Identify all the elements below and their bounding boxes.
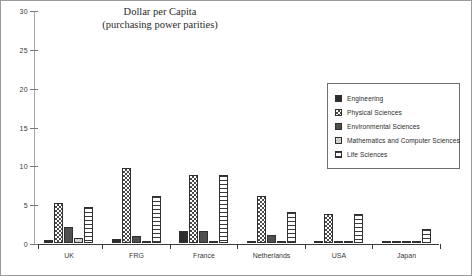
bar bbox=[392, 241, 401, 243]
y-axis-tick bbox=[30, 244, 38, 245]
y-axis-tick-label: 15 bbox=[19, 124, 28, 131]
bar bbox=[189, 175, 198, 243]
y-axis-tick-label: 25 bbox=[19, 46, 28, 53]
bar bbox=[287, 212, 296, 243]
bar bbox=[247, 241, 256, 243]
x-axis-label-japan: Japan bbox=[397, 252, 416, 259]
x-axis-label-usa: USA bbox=[332, 252, 346, 259]
bar bbox=[324, 214, 333, 243]
y-axis-tick bbox=[30, 205, 38, 206]
legend-swatch-icon bbox=[335, 137, 342, 144]
y-axis-tick-label: 30 bbox=[19, 8, 28, 15]
x-axis-tick bbox=[102, 244, 103, 249]
x-axis-tick bbox=[305, 244, 306, 249]
y-axis-tick-label: 20 bbox=[19, 85, 28, 92]
x-axis-label-netherlands: Netherlands bbox=[253, 252, 291, 259]
y-axis-tick-label: 5 bbox=[24, 202, 28, 209]
bar bbox=[44, 240, 53, 243]
bar-group-netherlands bbox=[247, 10, 296, 243]
bar bbox=[132, 236, 141, 243]
bar bbox=[422, 229, 431, 243]
x-axis-label-uk: UK bbox=[64, 252, 74, 259]
bar bbox=[314, 241, 323, 243]
legend-item-engineering[interactable]: Engineering bbox=[335, 91, 453, 105]
x-axis-tick bbox=[372, 244, 373, 249]
legend-item-label: Mathematics and Computer Sciences bbox=[347, 137, 460, 144]
legend-swatch-icon bbox=[335, 95, 342, 102]
y-axis-tick bbox=[30, 50, 38, 51]
legend-item-label: Physical Sciences bbox=[347, 109, 402, 116]
bar bbox=[412, 241, 421, 243]
y-axis-tick bbox=[30, 11, 38, 12]
bar-group-uk bbox=[44, 10, 93, 243]
bar bbox=[267, 235, 276, 243]
bar-group-frg bbox=[112, 10, 161, 243]
bar bbox=[277, 241, 286, 243]
legend-item-label: Environmental Sciences bbox=[347, 123, 420, 130]
bar bbox=[382, 241, 391, 243]
bar bbox=[344, 241, 353, 243]
bar bbox=[152, 196, 161, 243]
bar bbox=[219, 175, 228, 243]
legend-item-environmental-sciences[interactable]: Environmental Sciences bbox=[335, 119, 453, 133]
legend-item-life-sciences[interactable]: Life Sciences bbox=[335, 147, 453, 161]
legend-item-mathematics-and-computer-sciences[interactable]: Mathematics and Computer Sciences bbox=[335, 133, 453, 147]
x-axis-label-frg: FRG bbox=[129, 252, 144, 259]
bar bbox=[402, 241, 411, 243]
y-axis-tick bbox=[30, 89, 38, 90]
legend-item-physical-sciences[interactable]: Physical Sciences bbox=[335, 105, 453, 119]
bar bbox=[199, 231, 208, 243]
legend-item-label: Engineering bbox=[347, 95, 383, 102]
bar bbox=[122, 168, 131, 243]
bar bbox=[54, 203, 63, 243]
bar-group-france bbox=[179, 10, 228, 243]
legend-item-label: Life Sciences bbox=[347, 151, 388, 158]
y-axis-tick-label: 0 bbox=[24, 241, 28, 248]
bar bbox=[179, 231, 188, 243]
y-axis-tick-label: 10 bbox=[19, 163, 28, 170]
x-axis-label-france: France bbox=[193, 252, 215, 259]
x-axis-tick bbox=[237, 244, 238, 249]
y-axis-tick bbox=[30, 128, 38, 129]
bar bbox=[74, 238, 83, 243]
bar bbox=[334, 241, 343, 243]
bar bbox=[354, 214, 363, 243]
legend-swatch-icon bbox=[335, 151, 342, 158]
legend-swatch-icon bbox=[335, 123, 342, 130]
bar bbox=[257, 196, 266, 243]
bar bbox=[84, 207, 93, 243]
x-axis-tick bbox=[170, 244, 171, 249]
y-axis-tick bbox=[30, 166, 38, 167]
figure-frame: Dollar per Capita (purchasing power pari… bbox=[0, 0, 472, 276]
x-axis-tick bbox=[38, 244, 39, 249]
bar bbox=[142, 241, 151, 243]
bar bbox=[209, 241, 218, 243]
legend-swatch-icon bbox=[335, 109, 342, 116]
x-axis-tick bbox=[440, 244, 441, 249]
bar bbox=[112, 239, 121, 243]
chart-legend: EngineeringPhysical SciencesEnvironmenta… bbox=[327, 83, 460, 169]
bar bbox=[64, 227, 73, 243]
